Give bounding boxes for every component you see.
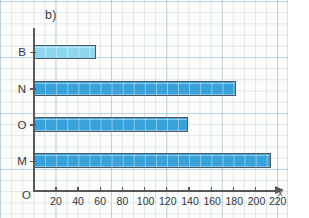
x-tick-160 (211, 187, 212, 193)
bar-N (33, 81, 236, 96)
bar-M (33, 153, 271, 168)
x-tick-20 (55, 187, 56, 193)
bar-chart-plot: b) x O 20 40 60 80 100 120 140 160 180 (0, 0, 309, 218)
bar-O (33, 117, 188, 132)
x-tick-label-120: 120 (159, 195, 177, 207)
y-tick-label-B: B (16, 46, 28, 58)
x-tick-180 (233, 187, 234, 193)
x-tick-120 (166, 187, 167, 193)
x-tick-140 (188, 187, 189, 193)
x-tick-220 (277, 187, 278, 193)
panel-label: b) (45, 8, 57, 22)
x-tick-label-60: 60 (94, 195, 106, 207)
x-tick-label-40: 40 (72, 195, 84, 207)
y-tick-B (30, 52, 37, 54)
y-tick-O (30, 124, 37, 126)
x-tick-label-140: 140 (181, 195, 199, 207)
origin-label: O (22, 189, 31, 201)
y-tick-label-O: O (16, 119, 28, 131)
x-tick-label-100: 100 (137, 195, 155, 207)
x-tick-200 (255, 187, 256, 193)
x-tick-60 (100, 187, 101, 193)
y-tick-N (30, 88, 37, 90)
x-tick-80 (122, 187, 123, 193)
x-tick-label-200: 200 (248, 195, 266, 207)
x-tick-40 (77, 187, 78, 193)
y-tick-label-N: N (16, 83, 28, 95)
x-tick-label-180: 180 (226, 195, 244, 207)
y-tick-M (30, 161, 37, 163)
x-tick-label-80: 80 (117, 195, 129, 207)
y-tick-label-M: M (16, 155, 28, 167)
x-tick-label-220: 220 (269, 195, 287, 207)
x-tick-label-160: 160 (203, 195, 221, 207)
chart-page: b) x O 20 40 60 80 100 120 140 160 180 (0, 0, 309, 218)
x-tick-100 (144, 187, 145, 193)
x-tick-label-20: 20 (50, 195, 62, 207)
x-axis-line (33, 190, 277, 192)
bar-B (33, 45, 96, 60)
